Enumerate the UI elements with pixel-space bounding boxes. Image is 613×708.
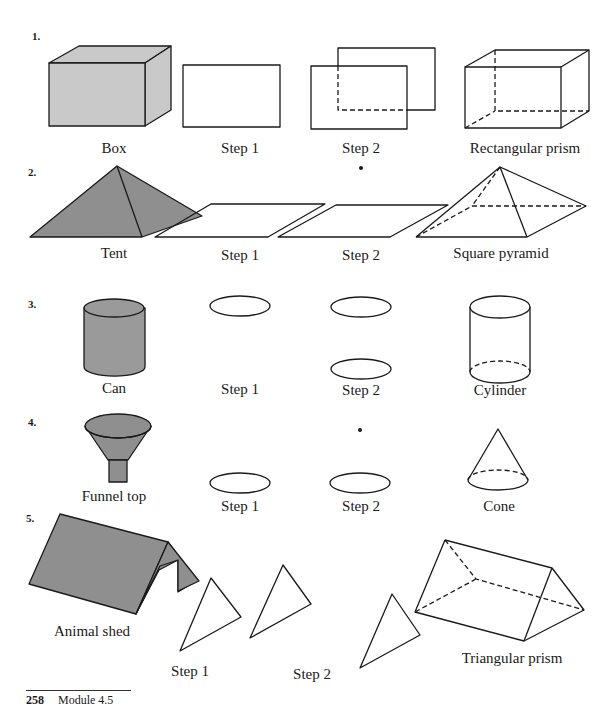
funnel-figure [85,414,151,482]
caption-animal-shed: Animal shed [54,623,130,640]
caption-triangular-prism: Triangular prism [462,650,563,667]
caption-step2-row4: Step 2 [342,498,380,515]
caption-step1-row5: Step 1 [171,663,209,680]
caption-step2-row2: Step 2 [342,247,380,264]
box-figure [49,46,171,126]
caption-box: Box [101,140,126,157]
caption-step2-row5: Step 2 [293,666,331,683]
caption-rectangular-prism: Rectangular prism [470,140,580,157]
caption-step1-row1: Step 1 [221,140,259,157]
triangular-prism-figure [415,540,584,641]
triangle-step1-b [250,565,311,638]
rect-step1-row1 [183,65,280,127]
ellipse-step1-row3 [210,296,270,316]
page-number: 258 [26,693,44,707]
animal-shed-figure [29,514,199,614]
caption-step1-row3: Step 1 [221,381,259,398]
rect-step2-row1 [311,48,435,129]
apex-point-row2 [359,166,363,170]
caption-step1-row2: Step 1 [221,247,259,264]
triangle-step1-a [180,578,241,651]
square-pyramid-figure [416,167,586,237]
caption-cylinder: Cylinder [474,382,527,399]
caption-square-pyramid: Square pyramid [453,245,548,262]
can-figure [84,299,145,376]
apex-point-row4 [358,428,362,432]
exercise-number-3: 3. [28,298,36,310]
caption-tent: Tent [101,245,127,262]
ellipse-step2-bottom-row3 [331,359,391,379]
exercise-number-5: 5. [26,512,34,524]
rectangular-prism-figure [465,50,589,128]
cylinder-figure [470,296,530,383]
module-label: Module 4.5 [58,693,113,707]
caption-step1-row4: Step 1 [221,498,259,515]
caption-cone: Cone [483,498,515,515]
ellipse-step2-row4 [330,473,390,493]
caption-can: Can [102,380,126,397]
page-footer: 258Module 4.5 [26,690,131,708]
caption-funnel-top: Funnel top [82,488,147,505]
ellipse-step1-row4 [210,473,270,493]
caption-step2-row3: Step 2 [342,382,380,399]
ellipse-step2-top-row3 [331,297,391,317]
exercise-number-1: 1. [32,30,40,42]
exercise-number-4: 4. [28,416,36,428]
exercise-number-2: 2. [28,166,36,178]
tent-figure [30,166,202,237]
exercise-figures [0,0,613,708]
caption-step2-row1: Step 2 [342,140,380,157]
triangle-step2 [360,594,420,668]
textbook-page: 1. 2. 3. 4. 5. Box Step 1 Step 2 Rectang… [0,0,613,708]
cone-figure [468,429,528,490]
